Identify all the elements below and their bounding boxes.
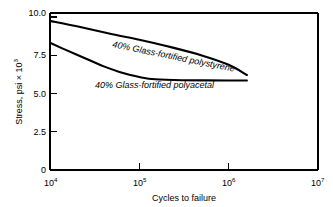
fatigue-stress-chart: 0 2.5 5.0 7.5 10.0 104 105 106 107: [0, 0, 333, 207]
x-tick-label-1e5: 105: [133, 176, 147, 188]
y-tick-label-0: 0: [41, 165, 46, 175]
curve-label-polyacetal: 40% Glass-fortified polyacetal: [95, 80, 215, 90]
x-tick-label-1e6: 106: [222, 176, 236, 188]
y-axis-ticks: [50, 17, 57, 170]
y-tick-label-5-0: 5.0: [33, 89, 46, 99]
y-axis-tick-labels: 0 2.5 5.0 7.5 10.0: [28, 8, 46, 175]
y-tick-label-10-0: 10.0: [28, 8, 46, 18]
x-tick-label-1e4: 104: [44, 176, 58, 188]
chart-canvas: 0 2.5 5.0 7.5 10.0 104 105 106 107: [0, 0, 333, 207]
x-axis-ticks: [139, 163, 228, 170]
y-tick-label-2-5: 2.5: [33, 127, 46, 137]
x-axis-title: Cycles to failure: [152, 193, 216, 203]
x-axis-tick-labels: 104 105 106 107: [44, 176, 325, 188]
y-tick-label-7-5: 7.5: [33, 50, 46, 60]
curve-label-polystyrene: 40% Glass-fortified polystyrene: [112, 39, 236, 74]
x-tick-label-1e7: 107: [311, 176, 325, 188]
y-axis-title: Stress, psi × 103: [12, 59, 24, 125]
axes-frame: [50, 13, 318, 170]
